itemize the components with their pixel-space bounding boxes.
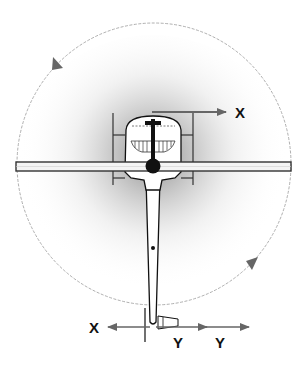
rotation-arrow-upper-left-icon	[52, 57, 63, 70]
rotor-hub	[146, 159, 161, 174]
tail-boom	[146, 178, 160, 324]
bottom-y-axis-label-1: Y	[173, 334, 183, 351]
top-x-axis-label: X	[235, 104, 245, 121]
mast-crossbar	[145, 121, 161, 125]
helicopter-diagram: X X Y Y	[0, 0, 304, 367]
rotation-arrow-lower-right-icon	[246, 257, 258, 270]
bottom-y-axis-label-2: Y	[215, 334, 225, 351]
bottom-x-axis-label: X	[89, 319, 99, 336]
tail-center-dot	[151, 246, 155, 250]
rotor-mast	[151, 119, 155, 165]
